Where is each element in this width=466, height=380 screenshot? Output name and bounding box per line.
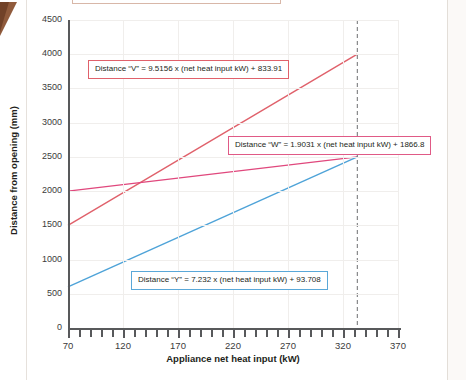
x-tick-minor [145,330,147,337]
x-tick-label: 370 [378,340,418,351]
x-tick-minor [134,330,136,337]
x-tick-minor [387,330,389,337]
y-tick-label: 4000 [32,49,62,58]
x-tick-major [343,330,345,338]
x-tick-minor [244,330,246,337]
annotation-distance-v: Distance “V” = 9.5156 x (net heat input … [88,60,289,79]
y-axis-tick-labels: 050010001500200025003000350040004500 [30,0,62,380]
y-tick-label: 4500 [32,15,62,24]
x-tick-minor [299,330,301,337]
x-tick-label: 270 [268,340,308,351]
x-axis-line [68,328,401,330]
annotation-distance-y: Distance “Y” = 7.232 x (net heat input k… [131,271,328,290]
x-tick-minor [255,330,257,337]
y-tick-label: 2000 [32,186,62,195]
x-tick-minor [332,330,334,337]
x-tick-label: 220 [213,340,253,351]
page-right-shade [448,0,466,380]
x-tick-label: 320 [323,340,363,351]
x-tick-minor [101,330,103,337]
x-tick-minor [79,330,81,337]
x-tick-minor [189,330,191,337]
y-axis-line [68,20,70,330]
x-tick-major [68,330,70,338]
page-left-margin-rule [26,0,27,380]
gridline-vertical [398,20,399,328]
series-line [68,157,357,191]
y-tick-label: 1500 [32,220,62,229]
x-tick-minor [376,330,378,337]
x-tick-minor [156,330,158,337]
y-tick-label: 3000 [32,118,62,127]
x-tick-minor [200,330,202,337]
x-tick-label: 120 [103,340,143,351]
x-tick-major [288,330,290,338]
x-tick-minor [321,330,323,337]
y-tick-label: 1000 [32,255,62,264]
annotation-distance-w: Distance “W” = 1.9031 x (net heat input … [228,136,431,155]
y-axis-title: Distance from opening (mm) [8,86,19,256]
y-tick-label: 3500 [32,83,62,92]
x-tick-minor [310,330,312,337]
x-tick-minor [365,330,367,337]
x-tick-minor [354,330,356,337]
x-axis-title: Appliance net heat input (kW) [0,353,466,364]
x-tick-major [178,330,180,338]
clipped-caption-box [72,0,281,4]
y-tick-label: 2500 [32,152,62,161]
x-tick-label: 70 [48,340,88,351]
x-tick-minor [112,330,114,337]
x-tick-major [123,330,125,338]
y-tick-label: 500 [32,289,62,298]
x-tick-major [398,330,400,338]
x-tick-major [233,330,235,338]
x-tick-minor [90,330,92,337]
x-tick-minor [167,330,169,337]
series-line [68,157,357,287]
page-corner-fold-inner-icon [0,2,9,32]
x-tick-minor [277,330,279,337]
gridline-vertical [343,20,344,328]
x-tick-minor [211,330,213,337]
x-tick-label: 170 [158,340,198,351]
y-tick-label: 0 [32,323,62,332]
x-tick-minor [266,330,268,337]
x-tick-minor [222,330,224,337]
chart-page: ....pp... ..g. ... .... .....g... 050010… [0,0,466,380]
